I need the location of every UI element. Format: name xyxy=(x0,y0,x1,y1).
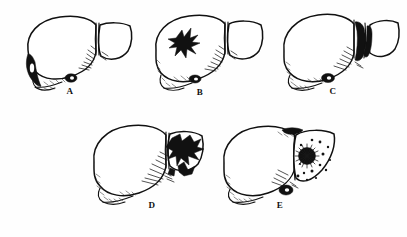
panel-a: A xyxy=(8,8,138,98)
panel-label-a: A xyxy=(60,86,80,96)
liver-outline-c xyxy=(284,14,354,81)
panel-label-c: C xyxy=(323,86,343,96)
panel-label-b: B xyxy=(190,87,210,97)
gallbladder-highlight-a xyxy=(70,76,74,80)
liver-right-lobe-a xyxy=(99,23,132,59)
liver-right-lobe-b xyxy=(228,21,263,59)
gallbladder-highlight-b xyxy=(194,77,198,80)
panel-c: C xyxy=(268,6,404,98)
wedge-highlight-a xyxy=(30,64,34,73)
panel-e: E xyxy=(208,118,344,214)
gallbladder-highlight-e xyxy=(285,188,289,192)
panel-b: B xyxy=(138,8,270,98)
panel-label-d: D xyxy=(142,200,162,210)
panel-label-e: E xyxy=(270,200,290,210)
gallbladder-highlight-c xyxy=(327,76,331,80)
liver-drawing-a xyxy=(8,8,138,98)
liver-outline-d xyxy=(94,125,166,195)
liver-drawing-c xyxy=(268,6,404,98)
liver-right-lobe-c xyxy=(368,21,399,57)
panel-d: D xyxy=(78,118,210,214)
liver-drawing-b xyxy=(138,8,270,98)
figure-plate: A xyxy=(0,0,407,237)
